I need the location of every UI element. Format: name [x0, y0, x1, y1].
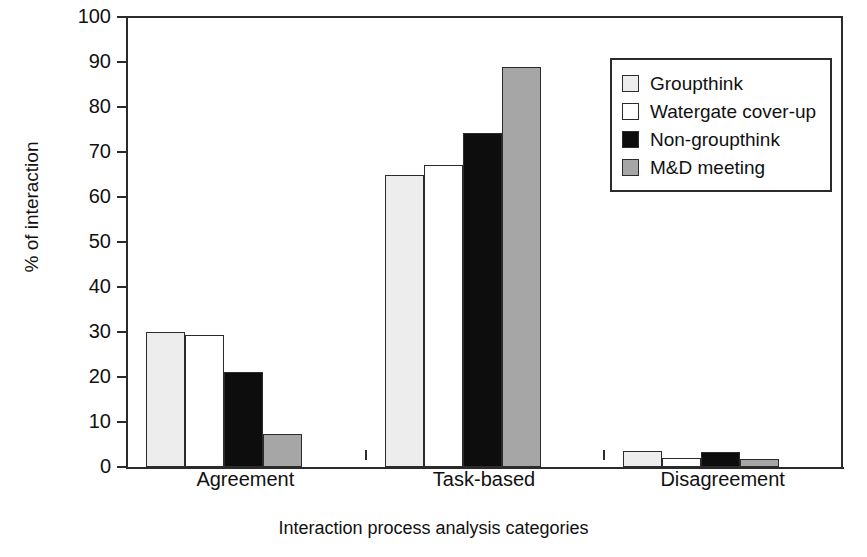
y-tick-mark — [117, 106, 126, 108]
x-axis-category-label: Agreement — [196, 468, 294, 491]
y-tick-label: 100 — [78, 3, 111, 29]
legend-item: Watergate cover-up — [622, 97, 816, 125]
y-tick-label: 40 — [89, 273, 111, 299]
bar — [263, 434, 302, 467]
legend-item: Non-groupthink — [622, 125, 816, 153]
x-axis-category-label: Disagreement — [660, 468, 785, 491]
y-tick-label: 0 — [100, 453, 111, 479]
y-tick-mark — [117, 16, 126, 18]
y-tick-mark — [117, 421, 126, 423]
y-tick-mark — [117, 331, 126, 333]
y-tick-label: 50 — [89, 228, 111, 254]
y-tick-mark — [117, 196, 126, 198]
y-tick-mark — [117, 376, 126, 378]
bar — [740, 459, 779, 467]
bar — [463, 133, 502, 467]
legend-label: Non-groupthink — [650, 130, 780, 149]
bar — [701, 452, 740, 467]
x-axis-title: Interaction process analysis categories — [0, 518, 867, 539]
y-tick-label: 10 — [89, 408, 111, 434]
legend-swatch-md-meeting — [622, 159, 639, 176]
y-tick-mark — [117, 466, 126, 468]
y-axis-title: % of interaction — [21, 97, 43, 317]
bar — [502, 67, 541, 468]
legend-label: Groupthink — [650, 74, 743, 93]
y-tick-mark — [117, 151, 126, 153]
legend-swatch-groupthink — [622, 75, 639, 92]
y-tick-label: 30 — [89, 318, 111, 344]
y-tick-mark — [117, 61, 126, 63]
y-tick-label: 20 — [89, 363, 111, 389]
y-tick-label: 80 — [89, 93, 111, 119]
bar — [623, 451, 662, 467]
bar — [662, 458, 701, 467]
legend-item: Groupthink — [622, 69, 816, 97]
bar — [146, 332, 185, 467]
y-tick-label: 60 — [89, 183, 111, 209]
y-tick-label: 70 — [89, 138, 111, 164]
legend-item: M&D meeting — [622, 153, 816, 181]
y-tick-mark — [117, 286, 126, 288]
legend-label: Watergate cover-up — [650, 102, 816, 121]
x-axis-category-label: Task-based — [433, 468, 535, 491]
y-tick-label: 90 — [89, 48, 111, 74]
x-axis-tick-mark — [365, 450, 367, 460]
x-axis-tick-mark — [603, 450, 605, 460]
bar — [185, 335, 224, 467]
bar-chart: % of interaction 1009080706050403020100 … — [0, 0, 867, 557]
legend-swatch-watergate-cover-up — [622, 103, 639, 120]
chart-legend: Groupthink Watergate cover-up Non-groupt… — [610, 58, 832, 192]
bar — [424, 165, 463, 467]
bar — [385, 175, 424, 468]
legend-label: M&D meeting — [650, 158, 765, 177]
bar — [224, 372, 263, 467]
y-tick-mark — [117, 241, 126, 243]
legend-swatch-non-groupthink — [622, 131, 639, 148]
